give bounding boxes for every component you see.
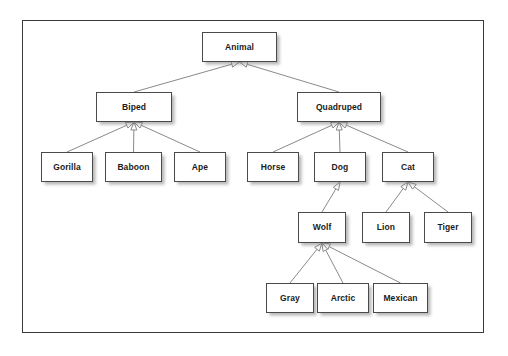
node-quadruped[interactable]: Quadruped [297, 92, 381, 122]
node-label: Arctic [331, 294, 356, 303]
node-label: Animal [225, 43, 254, 52]
node-tiger[interactable]: Tiger [424, 212, 472, 243]
node-label: Biped [122, 103, 146, 112]
node-lion[interactable]: Lion [362, 212, 410, 243]
node-label: Gorilla [53, 163, 81, 172]
node-dog[interactable]: Dog [314, 152, 366, 182]
node-label: Horse [261, 163, 286, 172]
node-biped[interactable]: Biped [96, 92, 172, 122]
node-gorilla[interactable]: Gorilla [41, 152, 93, 182]
node-horse[interactable]: Horse [247, 152, 299, 182]
diagram-canvas: AnimalBipedQuadrupedGorillaBaboonApeHors… [0, 0, 508, 356]
node-label: Cat [401, 163, 415, 172]
node-label: Dog [332, 163, 349, 172]
node-label: Quadruped [316, 103, 362, 112]
node-label: Mexican [383, 294, 417, 303]
node-label: Tiger [437, 223, 458, 232]
node-wolf[interactable]: Wolf [298, 212, 346, 243]
node-cat[interactable]: Cat [382, 152, 434, 182]
node-label: Lion [377, 223, 395, 232]
node-ape[interactable]: Ape [174, 152, 226, 182]
node-gray[interactable]: Gray [266, 283, 314, 313]
node-label: Gray [280, 294, 300, 303]
node-baboon[interactable]: Baboon [105, 152, 162, 182]
node-arctic[interactable]: Arctic [317, 283, 369, 313]
node-label: Baboon [117, 163, 149, 172]
node-label: Wolf [313, 223, 332, 232]
node-mexican[interactable]: Mexican [373, 283, 428, 313]
node-label: Ape [192, 163, 208, 172]
node-animal[interactable]: Animal [202, 32, 277, 62]
